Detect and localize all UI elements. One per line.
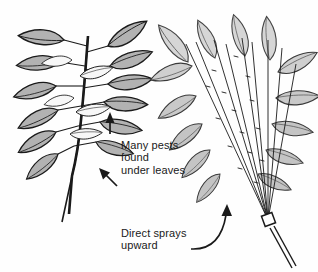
callout-direct-sprays: Direct sprays upward — [121, 227, 186, 252]
sprayed-plant-top-leaves — [156, 14, 279, 68]
figure-canvas: Many pests found under leaves Direct spr… — [0, 0, 318, 272]
arrow-diagonal-icon — [99, 168, 117, 186]
callout-many-pests: Many pests found under leaves — [121, 139, 185, 176]
spray-nozzle-icon — [261, 212, 296, 268]
plant-leaf-undersides — [41, 55, 113, 142]
arrow-curved-icon — [191, 204, 232, 249]
left-plant-group — [13, 19, 154, 222]
sprayed-plant-right-leaves — [256, 50, 318, 199]
sprayed-plant-left-leaves — [149, 61, 226, 204]
